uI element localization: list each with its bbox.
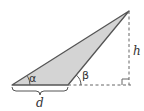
- beta-angle-arc: [76, 75, 81, 85]
- base-label: d: [36, 96, 44, 110]
- right-angle-marker: [122, 79, 129, 85]
- height-label: h: [133, 44, 141, 58]
- beta-label: β: [82, 69, 89, 82]
- base-brace: [12, 87, 68, 95]
- alpha-label: α: [29, 72, 36, 85]
- triangle-diagram: α β h d: [0, 0, 144, 111]
